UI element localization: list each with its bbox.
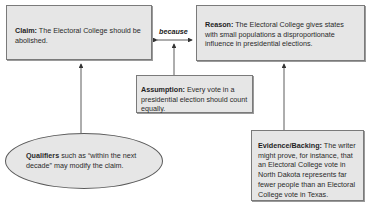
qualifiers-ellipse: Qualifiers such as “within the next deca… [5, 133, 163, 189]
evidence-label: Evidence/Backing: [258, 141, 322, 150]
reason-label: Reason: [205, 20, 233, 29]
evidence-box: Evidence/Backing: The writer might prove… [251, 130, 364, 201]
claim-box: Claim: The Electoral College should be a… [6, 5, 152, 60]
claim-label: Claim: [15, 26, 37, 35]
because-label: because [159, 27, 188, 36]
qualifiers-label: Qualifiers [26, 151, 59, 160]
reason-box: Reason: The Electoral College gives stat… [196, 5, 365, 61]
assumption-label: Assumption: [141, 85, 185, 94]
assumption-box: Assumption: Every vote in a presidential… [136, 75, 253, 113]
